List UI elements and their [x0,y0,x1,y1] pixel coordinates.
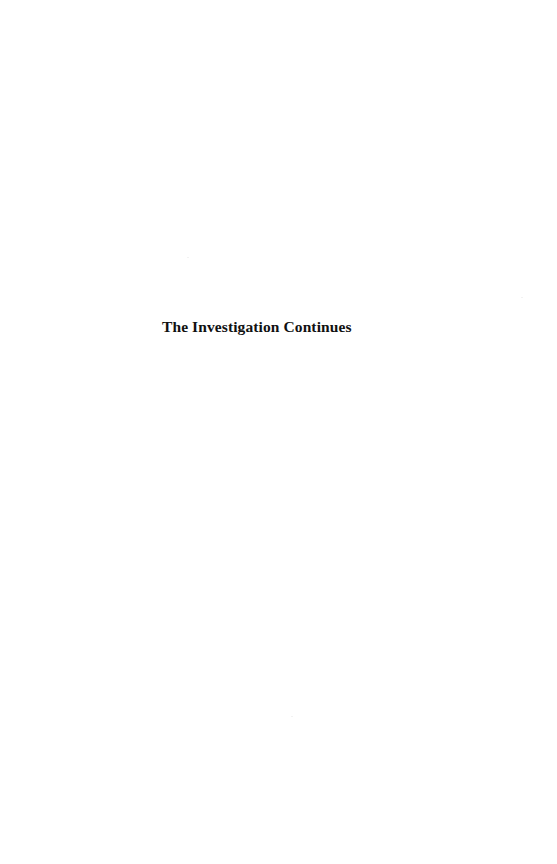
scan-artifact [521,297,523,298]
half-title-heading: The Investigation Continues [162,318,386,336]
scan-artifact [291,716,293,717]
scan-artifact [187,257,189,258]
book-page: The Investigation Continues [0,0,557,864]
